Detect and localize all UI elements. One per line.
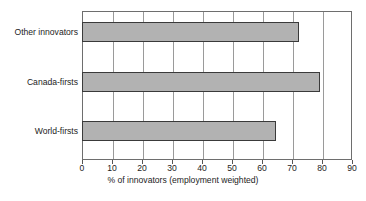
x-tick-label: 80 xyxy=(307,163,337,173)
x-tick-label: 10 xyxy=(97,163,127,173)
bars-layer xyxy=(82,11,352,160)
bar-world-firsts[interactable] xyxy=(82,121,276,141)
x-tick-label: 50 xyxy=(217,163,247,173)
bar-canada-firsts[interactable] xyxy=(82,72,320,92)
bar-other-innovators[interactable] xyxy=(82,22,299,42)
figure-caption-cutoff xyxy=(22,193,342,200)
category-label-world-firsts: World-firsts xyxy=(0,126,78,136)
category-label-other-innovators: Other innovators xyxy=(0,27,78,37)
x-tick-label: 30 xyxy=(157,163,187,173)
x-tick-label: 90 xyxy=(337,163,366,173)
figure-container: Other innovators Canada-firsts World-fir… xyxy=(0,0,366,201)
x-tick-label: 70 xyxy=(277,163,307,173)
x-tick-label: 20 xyxy=(127,163,157,173)
x-axis-title: % of innovators (employment weighted) xyxy=(0,175,366,185)
category-label-canada-firsts: Canada-firsts xyxy=(0,77,78,87)
x-tick-label: 0 xyxy=(67,163,97,173)
x-tick-label: 40 xyxy=(187,163,217,173)
x-tick-label: 60 xyxy=(247,163,277,173)
